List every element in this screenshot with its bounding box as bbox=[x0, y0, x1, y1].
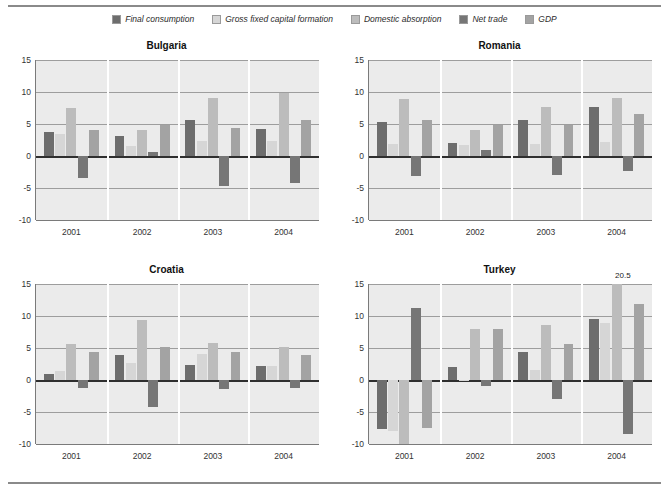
chart-panel-croatia: Croatia151050-5-102001200220032004 bbox=[0, 258, 333, 482]
bar bbox=[115, 355, 125, 380]
y-axis-tick-label: -5 bbox=[23, 407, 31, 417]
bar bbox=[634, 114, 644, 156]
y-axis-line bbox=[35, 60, 36, 220]
plot-area-wrapper: 151050-5-102001200220032004 bbox=[36, 284, 319, 444]
x-axis-tick-label: 2001 bbox=[62, 227, 81, 237]
legend-item-label: Gross fixed capital formation bbox=[225, 14, 333, 24]
legend-item: Domestic absorption bbox=[351, 14, 441, 24]
y-axis-tick-label: 10 bbox=[22, 87, 31, 97]
bar bbox=[267, 141, 277, 156]
bar bbox=[256, 366, 266, 380]
y-axis-tick-label: -5 bbox=[356, 183, 364, 193]
bar bbox=[160, 347, 170, 380]
plot-area bbox=[36, 284, 319, 444]
bar bbox=[493, 125, 503, 156]
bar bbox=[231, 128, 241, 156]
bar bbox=[115, 136, 125, 156]
x-axis-tick-label: 2002 bbox=[466, 227, 485, 237]
bar bbox=[137, 320, 147, 380]
group-separator bbox=[440, 284, 442, 444]
bar bbox=[411, 308, 421, 380]
value-annotation: 20.5 bbox=[615, 271, 631, 280]
x-axis-line bbox=[36, 444, 319, 445]
legend-item-label: Final consumption bbox=[125, 14, 194, 24]
y-axis-tick-label: -5 bbox=[23, 183, 31, 193]
y-axis-tick-label: 5 bbox=[26, 119, 31, 129]
y-axis-tick-label: -10 bbox=[19, 215, 31, 225]
bar bbox=[448, 367, 458, 380]
bar bbox=[301, 355, 311, 380]
y-axis-tick-label: 15 bbox=[22, 55, 31, 65]
legend-swatch-icon bbox=[112, 15, 121, 24]
bar bbox=[541, 107, 551, 156]
group-separator bbox=[511, 60, 513, 220]
bar bbox=[530, 144, 540, 156]
legend-item: Final consumption bbox=[112, 14, 194, 24]
legend-swatch-icon bbox=[351, 15, 360, 24]
bar bbox=[377, 122, 387, 156]
bar bbox=[634, 304, 644, 380]
group-separator bbox=[440, 60, 442, 220]
bar bbox=[589, 319, 599, 380]
bar bbox=[481, 380, 491, 386]
x-axis-tick-label: 2003 bbox=[203, 451, 222, 461]
group-separator bbox=[178, 60, 180, 220]
chart-panel-bulgaria: Bulgaria151050-5-102001200220032004 bbox=[0, 34, 333, 258]
plot-area-wrapper: 151050-5-102001200220032004 bbox=[36, 60, 319, 220]
chart-legend: Final consumptionGross fixed capital for… bbox=[0, 14, 669, 24]
group-separator bbox=[178, 284, 180, 444]
y-axis-tick-label: 0 bbox=[359, 151, 364, 161]
legend-swatch-icon bbox=[525, 15, 534, 24]
x-axis-tick-label: 2004 bbox=[274, 451, 293, 461]
bar bbox=[422, 120, 432, 156]
bar bbox=[612, 284, 622, 380]
x-axis-tick-label: 2002 bbox=[133, 227, 152, 237]
chart-panel-grid: Bulgaria151050-5-102001200220032004Roman… bbox=[0, 34, 669, 482]
panel-title: Romania bbox=[333, 40, 666, 51]
y-axis-tick-label: 0 bbox=[26, 375, 31, 385]
bar bbox=[148, 380, 158, 407]
y-axis-tick-label: -5 bbox=[356, 407, 364, 417]
bar bbox=[148, 152, 158, 156]
bar bbox=[231, 352, 241, 380]
x-axis-line bbox=[369, 444, 652, 445]
bar bbox=[137, 130, 147, 156]
plot-area-wrapper: -18.820.5151050-5-102001200220032004 bbox=[369, 284, 652, 444]
bar bbox=[267, 366, 277, 380]
y-axis-tick-label: 10 bbox=[355, 311, 364, 321]
top-rule bbox=[8, 5, 661, 7]
bar bbox=[208, 343, 218, 380]
legend-item-label: GDP bbox=[538, 14, 556, 24]
bar bbox=[399, 99, 409, 156]
bar bbox=[388, 380, 398, 431]
bar bbox=[185, 365, 195, 380]
plot-area bbox=[36, 60, 319, 220]
y-axis-tick-label: 0 bbox=[26, 151, 31, 161]
y-axis-line bbox=[368, 60, 369, 220]
y-axis-tick-label: -10 bbox=[352, 439, 364, 449]
x-axis-tick-label: 2003 bbox=[203, 227, 222, 237]
bar bbox=[411, 156, 421, 176]
bar bbox=[89, 352, 99, 380]
bar bbox=[126, 146, 136, 156]
bar bbox=[185, 120, 195, 156]
group-separator bbox=[248, 284, 250, 444]
bar bbox=[44, 132, 54, 156]
plot-area bbox=[369, 284, 652, 444]
x-axis-tick-label: 2003 bbox=[536, 451, 555, 461]
y-axis-tick-label: 10 bbox=[22, 311, 31, 321]
bar bbox=[552, 380, 562, 399]
bar bbox=[197, 141, 207, 156]
chart-panel-turkey: Turkey-18.820.5151050-5-1020012002200320… bbox=[333, 258, 666, 482]
legend-swatch-icon bbox=[459, 15, 468, 24]
bar bbox=[301, 120, 311, 156]
group-separator bbox=[107, 60, 109, 220]
y-axis-tick-label: 15 bbox=[355, 55, 364, 65]
bar bbox=[197, 354, 207, 380]
x-axis-tick-label: 2003 bbox=[536, 227, 555, 237]
x-axis-line bbox=[36, 220, 319, 221]
bar bbox=[290, 380, 300, 388]
bar bbox=[518, 352, 528, 380]
bar bbox=[89, 130, 99, 156]
bar bbox=[612, 98, 622, 156]
